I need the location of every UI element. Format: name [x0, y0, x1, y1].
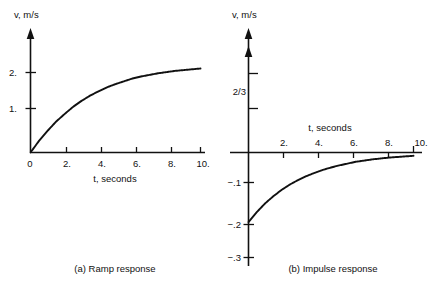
panel-a-y-ticklabel-1: 1. [9, 103, 17, 114]
panel-a-y-axis-arrowhead [27, 28, 35, 39]
panel-a-x-ticklabel-8: 8. [168, 158, 176, 169]
panel-a-y-axis-label: v, m/s [14, 9, 39, 20]
panel-a-x-ticklabel-6: 6. [133, 158, 141, 169]
panel-b-x-ticklabel-8: 8. [385, 137, 393, 148]
panel-a: v, m/s 2. 1. 0 2. 4. 6. 8. 10. t, second… [9, 9, 210, 274]
panel-b-y-ticklabel-neg-3: −.3 [228, 252, 241, 263]
panel-a-curve [31, 69, 201, 153]
panel-b: v, m/s 2/3 −.1 −.2 −.3 2. 4. 6. 8. 10. [228, 9, 428, 274]
panel-b-y-ticklabel-two-thirds: 2/3 [233, 86, 246, 97]
panel-b-x-ticklabel-4: 4. [315, 137, 323, 148]
panel-a-x-ticklabel-2: 2. [63, 158, 71, 169]
panel-b-x-ticklabel-6: 6. [350, 137, 358, 148]
panel-a-caption: (a) Ramp response [74, 263, 155, 274]
panel-b-y-ticklabel-neg-1: −.1 [228, 177, 241, 188]
panel-b-curve [249, 156, 414, 222]
panel-b-y-ticklabel-neg-2: −.2 [228, 219, 241, 230]
panel-b-y-axis-arrowhead [245, 28, 253, 39]
panel-a-x-ticklabel-10: 10. [196, 158, 209, 169]
panel-b-caption: (b) Impulse response [288, 263, 377, 274]
panel-a-x-ticklabel-4: 4. [98, 158, 106, 169]
panel-b-x-ticklabel-10: 10. [414, 137, 427, 148]
panel-a-x-ticklabel-0: 0 [27, 158, 32, 169]
panel-a-y-ticklabel-2: 2. [9, 67, 17, 78]
panel-a-x-axis-label: t, seconds [93, 173, 137, 184]
panel-b-y-axis-label: v, m/s [232, 9, 257, 20]
panel-b-x-axis-label: t, seconds [308, 122, 352, 133]
panel-b-impulse-arrowhead [245, 46, 253, 57]
figure-container: v, m/s 2. 1. 0 2. 4. 6. 8. 10. t, second… [0, 0, 433, 290]
panel-b-x-ticklabel-2: 2. [280, 137, 288, 148]
figure-svg: v, m/s 2. 1. 0 2. 4. 6. 8. 10. t, second… [0, 0, 433, 290]
